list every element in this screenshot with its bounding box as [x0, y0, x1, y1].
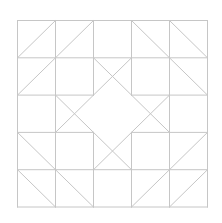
- quilt-block-diagram: [0, 0, 222, 223]
- quilt-pattern-graphic: [0, 0, 222, 223]
- background: [0, 0, 222, 223]
